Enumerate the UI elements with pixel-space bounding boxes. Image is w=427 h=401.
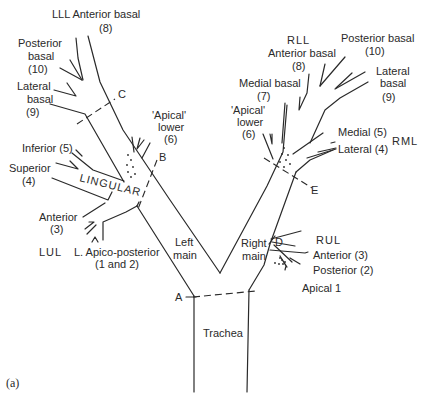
lll-posterior-basal-3: (10) (28, 63, 48, 75)
rll-posterior-basal-1: Posterior basal (341, 32, 414, 44)
rll-lateral-basal-1: Lateral (376, 65, 410, 77)
rul-posterior: Posterior (2) (313, 264, 374, 276)
lll-apical-lower-1: 'Apical' (152, 109, 186, 121)
lul-apico-posterior-2: (1 and 2) (95, 258, 139, 270)
rml-medial: Medial (5) (338, 126, 387, 138)
marker-c: C (118, 88, 126, 100)
lingular-superior-1: Superior (9, 162, 51, 174)
level-e-marker: E (264, 158, 318, 196)
lll-apical-lower-3: (6) (164, 133, 177, 145)
rll-lateral-basal-3: (9) (382, 91, 395, 103)
marker-a: A (175, 291, 183, 303)
level-a-marker: A (175, 291, 256, 303)
left-main-label-1: Left (175, 236, 193, 248)
rll-apical-lower-3: (6) (242, 128, 255, 140)
left-main-label-2: main (173, 249, 197, 261)
lll-posterior-basal-2: basal (28, 50, 54, 62)
rll-anterior-basal-1: Anterior basal (268, 47, 336, 59)
lll-anterior-basal-num: (8) (99, 22, 112, 34)
rll-medial-basal-2: (7) (257, 90, 270, 102)
rul-anterior: Anterior (3) (313, 249, 368, 261)
lll-anterior-basal-title: LLL Anterior basal (52, 8, 140, 20)
level-c-marker: C (77, 88, 126, 124)
lul-anterior-2: (3) (50, 223, 63, 235)
marker-d: D (275, 236, 283, 248)
lingular-inferior: Inferior (5) (22, 142, 73, 154)
rll-apical-lower-1: 'Apical' (231, 104, 265, 116)
lll-posterior-basal-1: Posterior (18, 37, 62, 49)
lul-anterior-1: Anterior (39, 211, 78, 223)
rul-title: RUL (316, 234, 341, 246)
level-d-marker: D (269, 236, 283, 248)
marker-e: E (311, 184, 318, 196)
lll-lateral-basal-2: basal (27, 93, 53, 105)
trachea-label: Trachea (203, 327, 244, 339)
lll-apical-lower-2: lower (158, 121, 185, 133)
lll-lateral-basal-3: (9) (26, 106, 39, 118)
rll-posterior-basal-2: (10) (365, 45, 385, 57)
lll-apical-lower-branch (126, 137, 150, 178)
lul-title: LUL (39, 246, 62, 258)
lul-branches (52, 150, 139, 242)
bronchial-tree-diagram: Trachea A Left main Right main (0, 0, 427, 401)
lll-lateral-basal-1: Lateral (17, 80, 51, 92)
rul-apical: Apical 1 (302, 282, 341, 294)
marker-b: B (159, 151, 166, 163)
trachea: Trachea (194, 290, 249, 392)
rll-medial-basal-1: Medial basal (239, 77, 301, 89)
right-main-label-1: Right (241, 237, 267, 249)
left-labels: LLL Anterior basal (8) Posterior basal (… (9, 8, 186, 270)
figure-label: (a) (6, 376, 19, 390)
rll-anterior-basal-2: (8) (292, 60, 305, 72)
rll-title: RLL (287, 34, 310, 46)
rll-apical-lower-2: lower (237, 116, 264, 128)
right-main-label-2: main (242, 250, 266, 262)
lul-apico-posterior-1: L. Apico-posterior (74, 246, 160, 258)
rml-lateral: Lateral (4) (338, 143, 388, 155)
lingular-superior-2: (4) (22, 175, 35, 187)
rll-lateral-basal-2: basal (380, 77, 406, 89)
rml-title: RML (392, 135, 418, 147)
